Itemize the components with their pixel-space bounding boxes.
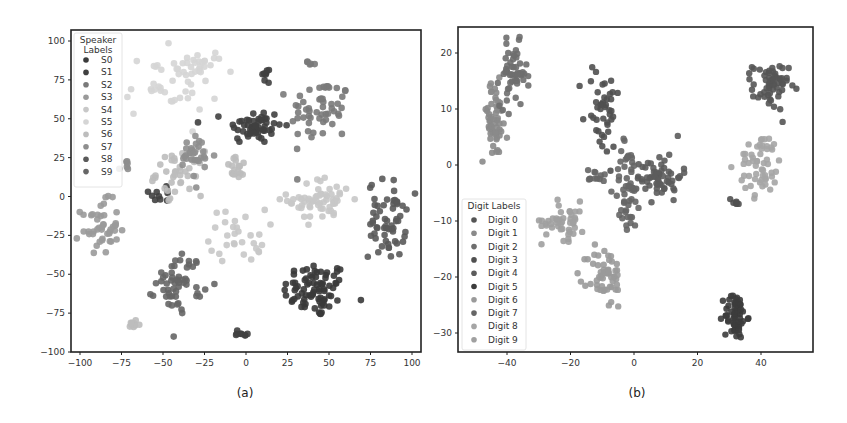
data-point — [742, 156, 748, 162]
data-point — [629, 159, 635, 165]
data-point — [185, 95, 192, 102]
data-point — [201, 164, 208, 171]
data-point — [328, 101, 335, 108]
data-point — [654, 182, 660, 188]
data-point — [224, 232, 231, 239]
data-point — [766, 136, 772, 142]
data-point — [195, 119, 202, 126]
data-point — [213, 209, 220, 216]
data-point — [163, 293, 170, 300]
data-point — [321, 288, 328, 295]
data-point — [216, 56, 223, 63]
data-point — [85, 228, 92, 235]
data-point — [605, 267, 611, 273]
data-point — [119, 227, 126, 234]
data-point — [191, 157, 198, 164]
data-point — [170, 333, 177, 340]
data-point — [543, 231, 549, 237]
data-point — [607, 284, 613, 290]
data-point — [736, 327, 742, 333]
data-point — [76, 209, 83, 216]
data-point — [746, 76, 752, 82]
data-point — [322, 275, 329, 282]
data-point — [173, 66, 180, 73]
series-digit-7 — [585, 136, 642, 233]
data-point — [306, 87, 313, 94]
data-point — [516, 34, 522, 40]
legend-marker — [83, 169, 89, 175]
data-point — [336, 190, 343, 197]
data-point — [231, 231, 238, 238]
data-point — [738, 334, 744, 340]
data-point — [277, 196, 284, 203]
data-point — [539, 218, 545, 224]
data-point — [648, 160, 654, 166]
data-point — [771, 141, 777, 147]
legend-entry: S9 — [101, 167, 113, 177]
data-point — [677, 173, 683, 179]
data-point — [661, 157, 667, 163]
data-point — [201, 58, 208, 65]
data-point — [593, 99, 599, 105]
data-point — [579, 229, 585, 235]
data-point — [548, 221, 554, 227]
data-point — [261, 207, 268, 214]
y-tick-label: −25 — [46, 230, 65, 240]
data-point — [776, 157, 782, 163]
x-tick-label: −40 — [498, 358, 517, 368]
data-point — [608, 188, 614, 194]
legend-entry: S1 — [101, 67, 112, 77]
data-point — [295, 293, 302, 300]
legend-entry: Digit 6 — [488, 295, 518, 305]
legend-marker — [83, 70, 89, 76]
data-point — [751, 66, 757, 72]
data-point — [588, 78, 594, 84]
data-point — [247, 232, 254, 239]
data-point — [170, 286, 177, 293]
data-point — [731, 321, 737, 327]
data-point — [294, 176, 301, 183]
data-point — [325, 110, 332, 117]
data-point — [757, 66, 763, 72]
y-tick-label: −20 — [433, 272, 452, 282]
data-point — [164, 187, 171, 194]
legend-marker — [83, 82, 89, 88]
data-point — [614, 261, 620, 267]
data-point — [517, 101, 523, 107]
y-tick-label: −10 — [433, 216, 452, 226]
data-point — [253, 245, 260, 252]
data-point — [189, 90, 196, 97]
data-point — [390, 177, 397, 184]
data-point — [585, 167, 591, 173]
data-point — [128, 320, 135, 327]
data-point — [765, 161, 771, 167]
data-point — [136, 321, 143, 328]
data-point — [236, 139, 243, 146]
legend-entry: Digit 5 — [488, 282, 518, 292]
data-point — [295, 103, 302, 110]
data-point — [365, 253, 372, 260]
data-point — [621, 164, 627, 170]
a-scatter-points — [74, 40, 419, 340]
data-point — [614, 193, 620, 199]
data-point — [113, 236, 120, 243]
data-point — [595, 262, 601, 268]
data-point — [492, 95, 498, 101]
data-point — [383, 238, 390, 245]
data-point — [488, 124, 494, 130]
legend-marker — [471, 324, 477, 330]
data-point — [320, 84, 327, 91]
data-point — [283, 281, 290, 288]
figure: −100−75−50−250255075100 1007550250−25−50… — [0, 0, 847, 423]
data-point — [172, 257, 179, 264]
data-point — [750, 93, 756, 99]
data-point — [96, 224, 103, 231]
legend-entry: Digit 8 — [488, 321, 518, 331]
data-point — [351, 196, 358, 203]
data-point — [305, 222, 312, 229]
data-point — [329, 121, 336, 128]
data-point — [384, 196, 391, 203]
data-point — [358, 297, 365, 304]
data-point — [488, 89, 494, 95]
legend-entry: Digit 2 — [488, 242, 518, 252]
